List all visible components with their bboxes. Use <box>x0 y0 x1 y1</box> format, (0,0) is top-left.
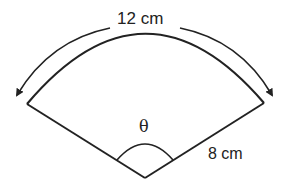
angle-label: θ <box>139 117 149 136</box>
sector-diagram: 12 cm θ 8 cm <box>0 0 290 184</box>
right-radius <box>145 103 264 178</box>
angle-arc <box>117 144 173 160</box>
left-radius <box>27 104 145 178</box>
radius-label: 8 cm <box>208 145 243 163</box>
arc-length-arrow-left <box>17 28 110 95</box>
arc-length-label: 12 cm <box>114 9 166 29</box>
arc-length-arrow-right <box>180 28 272 95</box>
sector-arc <box>27 34 264 104</box>
